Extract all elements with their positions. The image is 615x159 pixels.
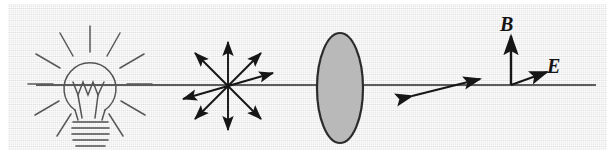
- burst-arrow-up-left: [195, 53, 228, 86]
- E-field-label: E: [547, 56, 560, 76]
- polarization-diagram-figure: B E: [0, 0, 615, 159]
- E-field-vector-arrow: [511, 72, 547, 85]
- bulb-neck-icon: [75, 110, 105, 120]
- bulb-filament-icon: [73, 82, 104, 95]
- unpolarized-field-vectors: [183, 42, 273, 130]
- diagram-canvas: [0, 0, 615, 159]
- bulb-base-icon: [72, 122, 109, 146]
- polarizer-disc: [317, 33, 363, 143]
- light-bulb: [64, 63, 116, 146]
- polarized-E-double-arrow: [412, 79, 480, 96]
- bulb-light-rays-icon: [28, 26, 152, 136]
- bulb-filament-legs-icon: [78, 95, 98, 118]
- bulb-glass-icon: [64, 63, 116, 110]
- burst-arrow-down-right: [228, 86, 261, 119]
- B-field-label: B: [500, 14, 513, 34]
